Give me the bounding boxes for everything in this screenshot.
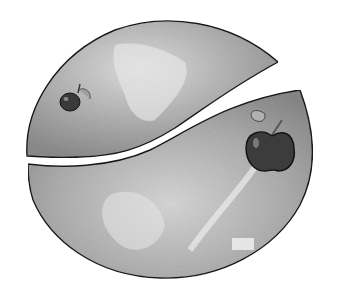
split-circle-illustration xyxy=(0,0,337,300)
lower-light-spot xyxy=(232,238,254,250)
